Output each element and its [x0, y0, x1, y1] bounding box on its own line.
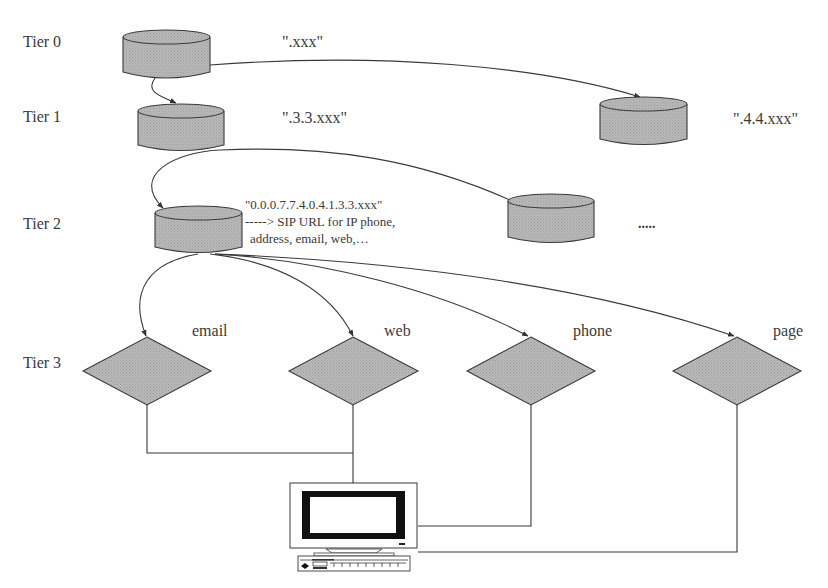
edge-tier0-to-tier1-right — [210, 60, 640, 97]
phone-label: phone — [573, 322, 612, 340]
edge-tier2-to-email — [140, 254, 198, 336]
edge-tier2-to-web — [210, 254, 353, 336]
tier-2-label: Tier 2 — [23, 215, 61, 233]
monitor-stand — [326, 549, 382, 553]
cylinder-tier2-right — [508, 194, 594, 243]
cylinder-tier1-right — [600, 97, 687, 145]
monitor-screen — [310, 497, 396, 533]
edge-tier0-to-tier1-left — [152, 78, 176, 103]
tier0-root-label: ".xxx" — [282, 33, 323, 51]
page-label: page — [773, 322, 803, 340]
edge-email-to-client — [147, 405, 353, 453]
edge-tier1-to-tier2-left — [152, 150, 220, 208]
cylinder-tier2-left — [155, 206, 242, 253]
diamond-page — [673, 337, 801, 405]
cylinder-tier1-left — [138, 104, 224, 151]
tier-1-label: Tier 1 — [23, 108, 61, 126]
tier2-left-label-line3: address, email, web,… — [250, 231, 369, 247]
edge-tier1-to-tier2-right — [220, 149, 510, 200]
diamond-web — [289, 337, 418, 405]
tier-0-label: Tier 0 — [23, 33, 61, 51]
tier1-left-label: ".3.3.xxx" — [282, 109, 347, 127]
email-label: email — [192, 322, 228, 340]
edge-tier2-to-page — [215, 254, 734, 336]
enum-hierarchy-diagram — [0, 0, 828, 588]
edge-page-to-client — [418, 405, 737, 552]
diamond-email — [83, 337, 211, 405]
edge-tier2-to-phone — [215, 254, 528, 336]
diamond-phone — [467, 337, 595, 405]
computer-icon — [290, 483, 417, 571]
cylinder-tier0-root — [123, 30, 210, 78]
tier3-nodes — [83, 337, 801, 405]
web-label: web — [384, 322, 411, 340]
more-nodes-ellipsis: ..... — [638, 215, 656, 233]
tier1-right-label: ".4.4.xxx" — [733, 110, 798, 128]
edge-phone-to-client — [418, 405, 531, 526]
tier-3-label: Tier 3 — [23, 354, 61, 372]
tier2-left-label-line2: -----> SIP URL for IP phone, — [245, 214, 395, 230]
tier2-left-label-line1: "0.0.0.7.7.4.0.4.1.3.3.xxx" — [245, 197, 382, 213]
